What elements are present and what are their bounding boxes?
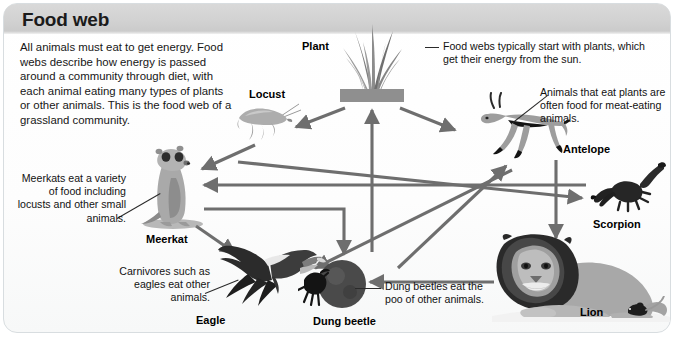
callout-dung-beetles: Dung beetles eat the poo of other animal… [385,280,495,306]
intro-paragraph: All animals must eat to get energy. Food… [20,40,235,128]
scorpion-illustration [590,158,666,214]
callout-meerkat-diet: Meerkats eat a variety of food including… [14,172,126,225]
label-meerkat: Meerkat [146,233,188,245]
plant-illustration [336,18,408,102]
edge-locust-scorpion [238,162,582,198]
leader-line-plants-start [425,47,439,48]
callout-plants-start: Food webs typically start with plants, w… [443,40,648,66]
label-scorpion: Scorpion [593,218,641,230]
label-locust: Locust [249,88,285,100]
callout-carnivores: Carnivores such as eagles eat other anim… [118,265,210,305]
dung-beetle-illustration [298,258,368,314]
leader-line-dung-beetles [355,288,381,289]
meerkat-illustration [140,138,206,234]
label-plant: Plant [302,40,329,52]
edge-locust-meerkat [202,145,255,169]
label-antelope: Antelope [563,143,610,155]
edge-plant-locust [296,108,345,127]
label-eagle: Eagle [196,314,225,326]
mouse-illustration [624,296,670,320]
label-dung-beetle: Dung beetle [313,315,376,327]
food-web-infographic: Food web All animals must eat to get ene… [0,0,678,340]
page-title: Food web [22,9,109,31]
locust-illustration [231,100,303,142]
label-lion: Lion [580,306,603,318]
edge-plant-antelope [400,108,455,130]
callout-plant-eaters: Animals that eat plants are often food f… [540,86,670,126]
